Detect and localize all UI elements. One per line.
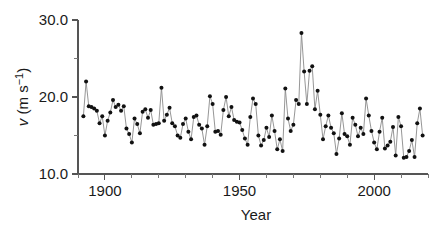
data-point [391,125,395,129]
data-point [321,137,325,141]
data-point [170,121,174,125]
data-point [291,123,295,127]
data-point [361,132,365,136]
data-point [116,103,120,107]
data-point [189,137,193,141]
data-point [313,107,317,111]
data-point [318,113,322,117]
data-point [324,124,328,128]
data-point [375,147,379,151]
data-point [98,121,102,125]
data-point [138,131,142,135]
data-point [124,127,128,131]
data-point [386,144,390,148]
data-point [205,124,209,128]
data-point [243,137,247,141]
data-point [421,134,425,138]
data-point [135,122,139,126]
y-axis-title-exponent: −1 [13,73,25,86]
data-point [197,123,201,127]
data-point [275,147,279,151]
data-point [308,69,312,73]
data-point [267,135,271,139]
y-tick-label: 30.0 [39,11,68,28]
data-point [254,102,258,106]
data-point [399,124,403,128]
data-point [394,154,398,158]
x-tick-label: 2000 [357,182,390,199]
data-point [133,117,137,121]
y-axis-ticks [72,20,78,174]
data-point [262,138,266,142]
data-point [259,144,263,148]
data-point [286,117,290,121]
data-point [345,134,349,138]
data-point [168,106,172,110]
data-point [146,116,150,120]
data-point [219,133,223,137]
data-point [165,113,169,117]
data-point [270,113,274,117]
data-point [396,115,400,119]
data-point [84,80,88,84]
data-point [305,102,309,106]
data-point [246,143,250,147]
data-point [159,86,163,90]
data-point [111,98,115,102]
data-point [256,134,260,138]
y-axis-title-close: ) [14,68,31,73]
data-point [95,109,99,113]
data-point [173,124,177,128]
data-point [186,130,190,134]
data-point [181,122,185,126]
data-point [369,129,373,133]
data-point [221,108,225,112]
data-point [340,111,344,115]
data-point [359,126,363,130]
data-point [106,119,110,123]
data-point [356,134,360,138]
series-line [83,33,422,158]
data-point [208,94,212,98]
x-axis-title: Year [241,206,271,223]
data-point [119,109,123,113]
data-point [127,132,131,136]
data-point [326,113,330,117]
data-point [299,31,303,35]
data-point [372,140,376,144]
data-point [404,155,408,159]
data-point [149,108,153,112]
data-point [388,140,392,144]
data-point [383,147,387,151]
data-point [353,123,357,127]
y-axis-title: v (m s−1) [13,68,31,126]
data-point [194,113,198,117]
axes-group: 10.020.030.0 190019502000 [39,11,428,199]
data-point [162,119,166,123]
data-point [367,113,371,117]
data-point [289,129,293,133]
y-axis-title-units: (m s [14,85,31,118]
data-point [240,128,244,132]
data-point [329,126,333,130]
data-point [122,104,126,108]
data-point [143,107,147,111]
data-point [413,155,417,159]
data-point [407,149,411,153]
data-point [178,136,182,140]
data-point [264,126,268,130]
data-point [229,105,233,109]
data-point [130,140,134,144]
y-axis-tick-labels: 10.020.030.0 [39,11,68,182]
data-point [281,149,285,153]
data-point [310,64,314,68]
data-point [203,143,207,147]
data-point [251,97,255,101]
y-tick-label: 20.0 [39,88,68,105]
data-point [283,87,287,91]
data-point [211,102,215,106]
x-axis-tick-labels: 190019502000 [88,182,391,199]
data-point [302,70,306,74]
data-point [278,137,282,141]
x-tick-label: 1900 [88,182,121,199]
